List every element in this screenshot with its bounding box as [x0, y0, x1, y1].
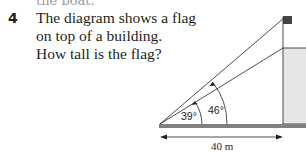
building — [283, 48, 306, 124]
flag-building-diagram: 39° 46° 40 m — [0, 0, 306, 153]
angle-label-46: 46° — [208, 104, 224, 116]
angle-arc-46 — [213, 82, 228, 124]
distance-label: 40 m — [211, 140, 234, 152]
distance-arrow-right — [276, 135, 283, 140]
angle-label-39: 39° — [181, 110, 197, 122]
ground — [159, 124, 306, 128]
flag — [283, 16, 292, 24]
distance-arrow-left — [160, 135, 167, 140]
angle-arrow-46 — [210, 82, 216, 86]
